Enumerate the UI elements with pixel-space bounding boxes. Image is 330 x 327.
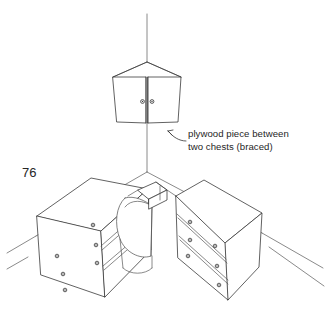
drawer-knob: [94, 243, 98, 247]
caption-block: plywood piece between two chests (braced…: [188, 128, 289, 152]
baseboard-right-upper-line: [262, 233, 323, 268]
drawer-knob: [55, 254, 59, 258]
leader-arc-line: [168, 131, 186, 141]
page-number: 76: [22, 165, 36, 180]
drawer-knob: [95, 261, 99, 265]
right-chest-of-drawers: [176, 180, 262, 300]
baseboard-left-lower-line: [7, 257, 28, 269]
caption-line-2: two chests (braced): [188, 141, 273, 152]
drawer-knob: [91, 223, 95, 227]
illustration-figure: plywood piece between two chests (braced…: [0, 0, 330, 327]
drawer-knob: [217, 283, 221, 287]
drawer-knob: [63, 288, 67, 292]
caption-line-1: plywood piece between: [188, 128, 289, 139]
cabinet-center-stile: [146, 77, 148, 123]
drawer-knob: [188, 220, 192, 224]
plywood-join-right-line: [167, 190, 176, 196]
drawer-knob: [213, 244, 217, 248]
caption-leader-arrow: [168, 130, 186, 141]
cabinet-right-knob: [150, 100, 154, 104]
corner-chests-line-drawing: plywood piece between two chests (braced…: [0, 0, 330, 327]
cabinet-left-knob: [141, 100, 145, 104]
upper-corner-cabinet: [113, 62, 181, 123]
cabinet-top-ridge: [113, 62, 181, 77]
drawer-knob: [186, 254, 190, 258]
drawer-knob: [61, 272, 65, 276]
baseboard-left-upper-line: [7, 236, 36, 253]
drawer-knob: [188, 238, 192, 242]
drawer-knob: [215, 264, 219, 268]
